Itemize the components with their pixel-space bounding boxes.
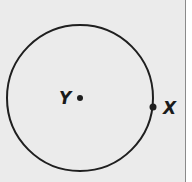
label-x: X [162,98,177,118]
point-x [150,104,157,111]
circle-diagram: Y X [0,0,192,182]
center-point-y [77,95,83,101]
label-y: Y [59,88,73,108]
